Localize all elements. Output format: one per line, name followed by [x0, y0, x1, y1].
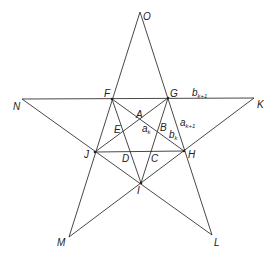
dot-H [183, 150, 186, 153]
label-L: L [214, 237, 220, 248]
dot-J [94, 151, 97, 154]
line-F-H [112, 99, 184, 151]
label-M: M [57, 237, 66, 248]
label-A: A [135, 109, 143, 120]
segment-label-a-k1: ak+1 [180, 117, 195, 129]
outer-star-lines [22, 12, 254, 237]
label-G: G [170, 88, 178, 99]
dot-G [167, 97, 170, 100]
label-H: H [188, 149, 196, 160]
pentagram-diagram: O F G N K A E B J H D C I M L ak bk ak+1… [0, 0, 276, 263]
segment-label-a-k: ak [142, 123, 152, 135]
label-O: O [143, 11, 151, 22]
label-I: I [137, 185, 140, 196]
dot-F [111, 98, 114, 101]
line-O-M [69, 12, 140, 237]
segment-label-b-k1: bk+1 [192, 87, 207, 99]
label-C: C [151, 153, 159, 164]
line-G-J [95, 98, 168, 152]
dot-I [140, 182, 143, 185]
label-F: F [104, 88, 111, 99]
line-G-I [141, 98, 168, 183]
label-E: E [114, 124, 121, 135]
line-J-H [95, 151, 184, 152]
line-N-K [22, 98, 254, 99]
label-K: K [257, 99, 265, 110]
label-D: D [122, 153, 129, 164]
point-labels: O F G N K A E B J H D C I M L [13, 11, 265, 248]
label-B: B [160, 122, 167, 133]
line-O-L [140, 12, 212, 235]
label-N: N [13, 101, 21, 112]
label-J: J [83, 149, 90, 160]
segment-label-b-k: bk [169, 129, 179, 141]
